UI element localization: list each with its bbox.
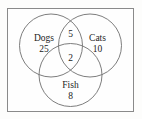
count-region-dogs-cats-fish: 2 bbox=[68, 53, 73, 63]
count-region-dogs-cats: 5 bbox=[68, 29, 73, 39]
venn-diagram-figure: Dogs 25 Cats 10 Fish 8 5 2 bbox=[0, 0, 142, 119]
label-set-fish: Fish bbox=[62, 80, 79, 90]
count-set-dogs: 25 bbox=[39, 44, 49, 54]
label-set-cats: Cats bbox=[89, 33, 106, 43]
count-set-cats: 10 bbox=[93, 44, 103, 54]
label-set-dogs: Dogs bbox=[34, 33, 54, 43]
venn-diagram-canvas: Dogs 25 Cats 10 Fish 8 5 2 bbox=[0, 0, 142, 119]
count-set-fish: 8 bbox=[68, 91, 73, 101]
